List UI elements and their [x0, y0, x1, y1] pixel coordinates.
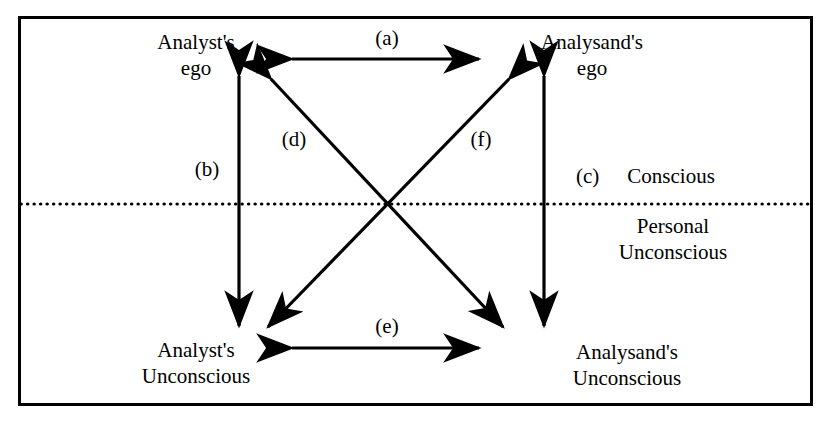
- edge-label-a: (a): [375, 28, 398, 49]
- edge-label-f: (f): [471, 129, 492, 150]
- node-analyst-ego-line1: Analyst's: [157, 30, 234, 54]
- region-personal-unconscious: Personal Unconscious: [619, 216, 728, 263]
- region-conscious-label: Conscious: [627, 164, 715, 188]
- node-analyst-ego-line2: ego: [157, 58, 234, 79]
- node-analysand-unconscious: Analysand's Unconscious: [573, 342, 682, 389]
- node-analysand-unconscious-line2: Unconscious: [573, 368, 682, 389]
- diagram-canvas: Analyst's ego Analysand's ego Analyst's …: [0, 0, 834, 427]
- node-analyst-ego: Analyst's ego: [157, 32, 234, 79]
- region-personal-unconscious-line2: Unconscious: [619, 242, 728, 263]
- region-conscious-row: (c)Conscious: [576, 166, 715, 187]
- edge-label-d: (d): [282, 129, 307, 150]
- node-analysand-ego: Analysand's ego: [541, 32, 643, 79]
- node-analyst-unconscious-line2: Unconscious: [142, 366, 251, 387]
- node-analysand-ego-line1: Analysand's: [541, 30, 643, 54]
- edge-label-c: (c): [576, 164, 599, 188]
- edge-label-b: (b): [195, 159, 220, 180]
- region-personal-unconscious-line1: Personal: [637, 214, 709, 238]
- node-analysand-ego-line2: ego: [541, 58, 643, 79]
- edge-label-e: (e): [375, 316, 398, 337]
- node-analyst-unconscious-line1: Analyst's: [157, 338, 234, 362]
- node-analyst-unconscious: Analyst's Unconscious: [142, 340, 251, 387]
- node-analysand-unconscious-line1: Analysand's: [576, 340, 678, 364]
